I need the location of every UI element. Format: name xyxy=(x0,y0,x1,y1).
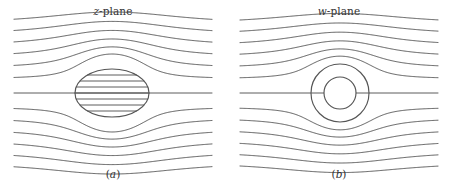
streamline xyxy=(240,108,438,130)
streamline xyxy=(14,21,212,30)
streamline xyxy=(14,12,212,19)
streamline xyxy=(240,155,438,163)
streamline xyxy=(240,13,438,20)
panel-w-plane: w-plane (b) xyxy=(226,0,452,185)
streamline xyxy=(14,30,212,42)
streamline xyxy=(14,108,212,132)
obstacle-interior-lines-z xyxy=(75,75,149,111)
panel-caption-a: (a) xyxy=(0,168,226,181)
streamline xyxy=(14,120,212,139)
streamline xyxy=(14,47,212,66)
caption-close-paren: ) xyxy=(342,168,346,180)
flow-diagram-z-plane xyxy=(0,0,226,185)
streamline xyxy=(240,41,438,54)
caption-close-paren: ) xyxy=(116,168,120,180)
streamline xyxy=(14,155,212,164)
figure-root: z-plane (a) w-plane (b) xyxy=(0,0,452,185)
streamline xyxy=(240,23,438,31)
streamline xyxy=(14,39,212,54)
streamline xyxy=(14,132,212,147)
streamline xyxy=(14,144,212,156)
panel-z-plane: z-plane (a) xyxy=(0,0,226,185)
streamline xyxy=(240,56,438,78)
streamline xyxy=(14,54,212,78)
streamline xyxy=(240,132,438,145)
panel-caption-b: (b) xyxy=(226,168,452,181)
flow-diagram-w-plane xyxy=(226,0,452,185)
